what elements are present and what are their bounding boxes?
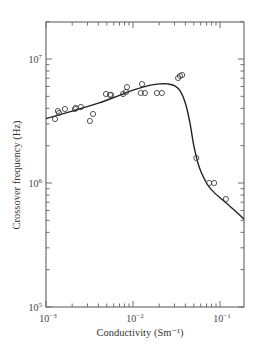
data-point [62,106,67,111]
data-point [159,90,164,95]
chart: 10−310−210−1105106107 Conductivity (Sm⁻¹… [0,0,257,357]
y-tick-label: 107 [29,53,43,65]
y-tick-label: 105 [29,301,43,313]
model-fit-curve [46,84,244,220]
x-tick-label: 10−2 [126,312,144,324]
data-point [223,196,228,201]
y-tick-label: 106 [29,177,43,189]
x-axis-label: Conductivity (Sm⁻¹) [96,327,184,339]
y-axis-label: Crossover frequency (Hz) [11,120,23,230]
data-point [212,180,217,185]
data-point [52,116,57,121]
data-markers [52,72,228,201]
data-point [139,82,144,87]
data-point [87,118,92,123]
axis-ticks [46,22,244,307]
data-point [154,90,159,95]
plot-frame [46,22,244,307]
x-tick-label: 10−3 [39,312,57,324]
data-point [124,85,129,90]
x-tick-label: 10−1 [213,312,231,324]
data-point [90,111,95,116]
tick-labels: 10−310−210−1105106107 [29,53,232,324]
